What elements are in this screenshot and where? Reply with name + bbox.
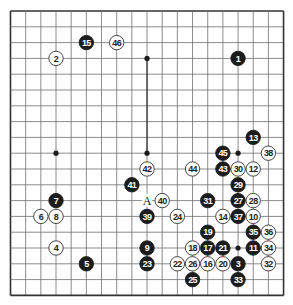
stone-black-39: 39 xyxy=(140,209,154,223)
move-number: 14 xyxy=(218,212,227,222)
move-number: 9 xyxy=(145,243,150,253)
move-number: 24 xyxy=(173,212,182,222)
markers-layer: A xyxy=(142,194,152,208)
stone-white-28: 28 xyxy=(246,193,260,207)
stone-white-34: 34 xyxy=(261,241,275,255)
stone-black-25: 25 xyxy=(185,272,199,286)
move-number: 45 xyxy=(218,148,227,158)
stone-white-42: 42 xyxy=(140,162,154,176)
move-number: 20 xyxy=(218,259,227,269)
stone-white-32: 32 xyxy=(261,257,275,271)
move-number: 5 xyxy=(84,259,89,269)
move-number: 1 xyxy=(236,54,241,64)
stone-black-31: 31 xyxy=(201,193,215,207)
star-point-icon xyxy=(144,56,149,61)
stone-black-35: 35 xyxy=(246,225,260,239)
stone-white-22: 22 xyxy=(170,257,184,271)
move-number: 15 xyxy=(82,38,91,48)
stone-white-10: 10 xyxy=(246,209,260,223)
stone-black-19: 19 xyxy=(201,225,215,239)
move-number: 18 xyxy=(188,243,197,253)
stone-black-33: 33 xyxy=(231,272,245,286)
move-number: 17 xyxy=(203,243,212,253)
stone-black-37: 37 xyxy=(231,209,245,223)
stone-white-12: 12 xyxy=(246,162,260,176)
stone-white-30: 30 xyxy=(231,162,245,176)
move-number: 33 xyxy=(234,275,243,285)
stone-black-5: 5 xyxy=(79,257,93,271)
star-point-icon xyxy=(235,151,240,156)
move-number: 31 xyxy=(203,196,212,206)
stone-black-15: 15 xyxy=(79,35,93,49)
move-number: 25 xyxy=(188,275,197,285)
move-number: 30 xyxy=(234,164,243,174)
move-number: 34 xyxy=(264,243,273,253)
move-number: 36 xyxy=(264,227,273,237)
star-point-icon xyxy=(235,245,240,250)
move-number: 43 xyxy=(218,164,227,174)
move-number: 10 xyxy=(249,212,258,222)
move-number: 41 xyxy=(127,180,136,190)
move-number: 44 xyxy=(188,164,197,174)
stone-white-6: 6 xyxy=(34,209,48,223)
move-number: 40 xyxy=(158,196,167,206)
move-number: 38 xyxy=(264,148,273,158)
move-number: 4 xyxy=(54,243,59,253)
stone-black-27: 27 xyxy=(231,193,245,207)
point-marker-label: A xyxy=(143,194,152,208)
move-number: 19 xyxy=(203,227,212,237)
move-number: 22 xyxy=(173,259,182,269)
move-number: 6 xyxy=(39,212,44,222)
stone-black-3: 3 xyxy=(231,257,245,271)
move-number: 3 xyxy=(236,259,241,269)
move-number: 12 xyxy=(249,164,258,174)
stone-black-45: 45 xyxy=(216,146,230,160)
move-number: 29 xyxy=(234,180,243,190)
stone-white-46: 46 xyxy=(109,35,123,49)
stone-black-29: 29 xyxy=(231,178,245,192)
move-number: 2 xyxy=(54,54,59,64)
stone-white-38: 38 xyxy=(261,146,275,160)
stone-white-36: 36 xyxy=(261,225,275,239)
move-number: 8 xyxy=(54,212,59,222)
stone-black-13: 13 xyxy=(246,130,260,144)
star-point-icon xyxy=(53,151,58,156)
stone-white-44: 44 xyxy=(185,162,199,176)
move-number: 27 xyxy=(234,196,243,206)
star-point-icon xyxy=(144,151,149,156)
stone-white-16: 16 xyxy=(201,257,215,271)
move-number: 46 xyxy=(112,38,121,48)
move-number: 21 xyxy=(218,243,227,253)
stone-black-23: 23 xyxy=(140,257,154,271)
move-number: 7 xyxy=(54,196,59,206)
stone-black-17: 17 xyxy=(201,241,215,255)
move-number: 16 xyxy=(203,259,212,269)
move-number: 35 xyxy=(249,227,258,237)
stone-black-1: 1 xyxy=(231,51,245,65)
move-number: 23 xyxy=(143,259,152,269)
stone-black-9: 9 xyxy=(140,241,154,255)
stone-black-21: 21 xyxy=(216,241,230,255)
stone-white-4: 4 xyxy=(49,241,63,255)
stone-white-2: 2 xyxy=(49,51,63,65)
stone-white-20: 20 xyxy=(216,257,230,271)
stone-black-11: 11 xyxy=(246,241,260,255)
stone-white-40: 40 xyxy=(155,193,169,207)
move-number: 26 xyxy=(188,259,197,269)
stone-white-14: 14 xyxy=(216,209,230,223)
move-number: 42 xyxy=(143,164,152,174)
stone-black-43: 43 xyxy=(216,162,230,176)
move-number: 13 xyxy=(249,133,258,143)
stone-white-8: 8 xyxy=(49,209,63,223)
move-number: 37 xyxy=(234,212,243,222)
stone-white-26: 26 xyxy=(185,257,199,271)
stone-white-24: 24 xyxy=(170,209,184,223)
stone-black-41: 41 xyxy=(125,178,139,192)
stone-white-18: 18 xyxy=(185,241,199,255)
move-number: 32 xyxy=(264,259,273,269)
go-board-diagram: 1234567891011121314151617181920212223242… xyxy=(0,0,293,305)
move-number: 39 xyxy=(143,212,152,222)
move-number: 28 xyxy=(249,196,258,206)
stone-black-7: 7 xyxy=(49,193,63,207)
move-number: 11 xyxy=(249,243,258,253)
